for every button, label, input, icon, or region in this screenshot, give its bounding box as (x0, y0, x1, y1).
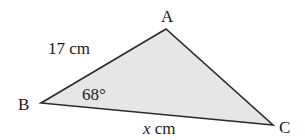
side-bc-length: x cm (142, 119, 176, 138)
triangle-diagram: A B C 17 cm 68° x cm (0, 0, 305, 140)
vertex-label-a: A (161, 7, 174, 26)
vertex-label-c: C (279, 118, 290, 137)
side-bc-unit: cm (151, 119, 176, 138)
vertex-label-b: B (18, 95, 29, 114)
side-ab-length: 17 cm (48, 39, 90, 58)
triangle-figure: A B C 17 cm 68° x cm (0, 0, 305, 140)
angle-b-label: 68° (82, 85, 106, 104)
